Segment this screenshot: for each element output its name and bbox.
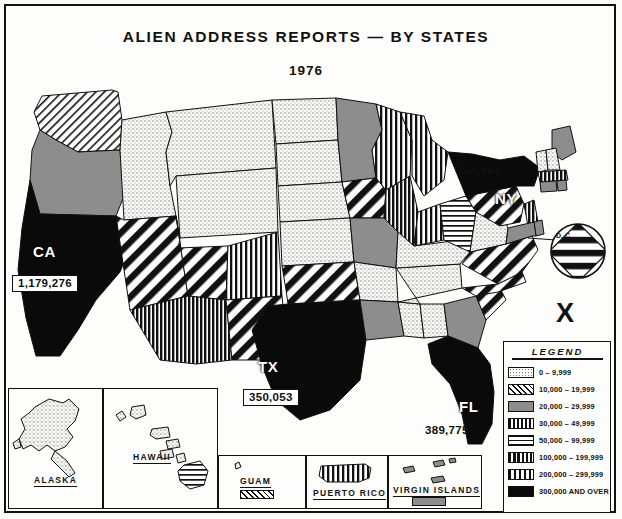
state-OK bbox=[282, 262, 360, 304]
hawaii-shape-svg bbox=[104, 389, 216, 494]
state-value-CA: 1,179,276 bbox=[12, 275, 78, 292]
state-NV bbox=[116, 216, 188, 310]
inset-panel-puerto-rico bbox=[306, 455, 388, 509]
puerto-rico-shape-svg bbox=[307, 456, 386, 490]
legend-swatch-grid bbox=[508, 469, 534, 480]
legend-label: 100,000 – 199,999 bbox=[539, 453, 603, 462]
legend-divider bbox=[512, 358, 603, 360]
legend-row: 200,000 – 299,999 bbox=[508, 466, 607, 483]
state-value-TX: 350,053 bbox=[243, 389, 299, 406]
state-CO bbox=[226, 232, 282, 300]
state-abbr-FL: FL bbox=[459, 398, 479, 415]
legend-swatch-vert-bold bbox=[508, 452, 534, 463]
legend-row: 50,000 – 99,999 bbox=[508, 432, 607, 449]
legend-swatch-gray bbox=[508, 401, 534, 412]
inset-label-puerto-rico: PUERTO RICO bbox=[313, 488, 386, 500]
state-TN bbox=[396, 264, 462, 304]
state-value-NY: 764,464 bbox=[457, 164, 501, 176]
inset-label-guam: GUAM bbox=[240, 476, 271, 488]
state-LA bbox=[360, 300, 404, 340]
legend-swatch-diag-thin bbox=[508, 384, 534, 395]
legend-row: 10,000 – 19,999 bbox=[508, 381, 607, 398]
legend-swatch-solid bbox=[508, 486, 534, 497]
inset-panel-alaska bbox=[8, 388, 103, 509]
legend-label: 200,000 – 299,999 bbox=[539, 470, 603, 479]
state-WY bbox=[176, 168, 278, 238]
state-abbr-TX: TX bbox=[258, 358, 278, 375]
state-ND bbox=[272, 98, 338, 144]
state-abbr-NY: NY bbox=[495, 190, 517, 207]
legend-row: 0 – 9,999 bbox=[508, 364, 607, 381]
state-IA bbox=[342, 178, 386, 218]
legend-label: 30,000 – 49,999 bbox=[539, 419, 595, 428]
inset-label-alaska: ALASKA bbox=[34, 475, 77, 487]
legend-swatch-vert bbox=[508, 418, 534, 429]
state-NE bbox=[278, 182, 350, 222]
inset-label-hawaii: HAWAII bbox=[133, 452, 171, 464]
legend-row: 20,000 – 29,999 bbox=[508, 398, 607, 415]
state-abbr-CA: CA bbox=[33, 243, 56, 260]
legend-label: 10,000 – 19,999 bbox=[539, 385, 595, 394]
state-CT bbox=[540, 181, 557, 192]
state-IN bbox=[414, 204, 444, 246]
legend-swatch-stipple bbox=[508, 367, 534, 378]
legend-label: 50,000 – 99,999 bbox=[539, 436, 595, 445]
state-value-FL: 389,775 bbox=[425, 424, 469, 436]
state-KS bbox=[280, 218, 354, 266]
legend-label: 20,000 – 29,999 bbox=[539, 402, 595, 411]
inset-swatch-virgin-islands bbox=[412, 497, 446, 506]
state-AZ bbox=[130, 296, 232, 364]
legend-heading: LEGEND bbox=[508, 346, 607, 357]
legend-row: 100,000 – 199,999 bbox=[508, 449, 607, 466]
legend-swatch-horiz bbox=[508, 435, 534, 446]
x-mark: X bbox=[556, 300, 574, 327]
legend-panel: LEGEND 0 – 9,999 10,000 – 19,999 20,000 … bbox=[503, 341, 611, 513]
legend-row: 300,000 AND OVER bbox=[508, 483, 607, 500]
alaska-shape-svg bbox=[9, 389, 101, 489]
state-AL bbox=[420, 304, 448, 338]
legend-label: 300,000 AND OVER bbox=[539, 487, 609, 496]
inset-label-virgin-islands: VIRGIN ISLANDS bbox=[393, 485, 480, 497]
legend-row: 30,000 – 49,999 bbox=[508, 415, 607, 432]
legend-label: 0 – 9,999 bbox=[539, 368, 571, 377]
inset-panel-hawaii bbox=[103, 388, 218, 509]
inset-swatch-guam bbox=[240, 490, 274, 499]
dc-inset-label: D. C. bbox=[556, 232, 572, 239]
state-SD bbox=[276, 140, 342, 186]
state-AR bbox=[354, 262, 398, 302]
state-RI bbox=[557, 180, 567, 191]
